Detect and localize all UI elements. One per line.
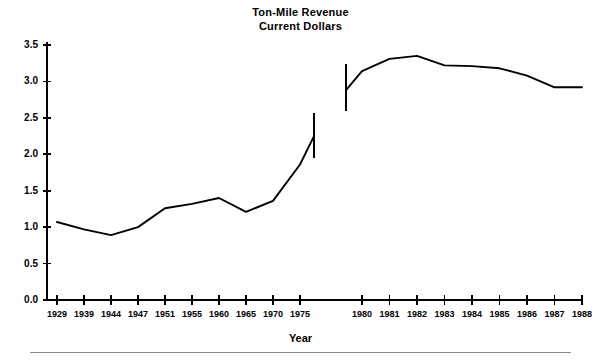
y-tick-label: 1.5 [6,186,38,196]
footer-divider [30,352,571,353]
y-tick-label: 3.5 [6,40,38,50]
break-markers-group [314,64,346,158]
axes-group [47,42,583,300]
data-series-line-2 [346,56,582,90]
x-tick-label: 1975 [280,309,320,319]
data-series-group [57,56,582,235]
y-tick-label: 2.5 [6,113,38,123]
x-tick-label: 1988 [562,309,601,319]
tick-marks-group [43,45,582,305]
chart-plot-area [0,0,601,361]
x-axis-caption: Year [0,332,601,344]
y-tick-label: 1.0 [6,222,38,232]
y-tick-label: 0.0 [6,295,38,305]
y-tick-label: 3.0 [6,76,38,86]
y-tick-label: 0.5 [6,259,38,269]
data-series-line-1 [57,136,314,235]
chart-figure: Ton-Mile Revenue Current Dollars 0.00.51… [0,0,601,361]
y-tick-label: 2.0 [6,149,38,159]
